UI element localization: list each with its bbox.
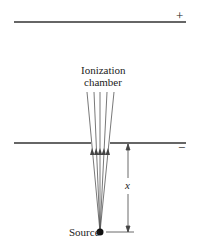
- minus-sign: −: [178, 142, 185, 154]
- distance-label: x: [125, 179, 130, 191]
- ionization-diagram: [0, 0, 197, 249]
- plus-sign: +: [176, 10, 183, 22]
- ray-arrowheads: [90, 148, 110, 155]
- chamber-label-line2: chamber: [84, 76, 122, 88]
- radiation-rays: [87, 92, 114, 232]
- source-label: Source: [69, 226, 100, 238]
- chamber-label-line1: Ionization: [81, 64, 126, 76]
